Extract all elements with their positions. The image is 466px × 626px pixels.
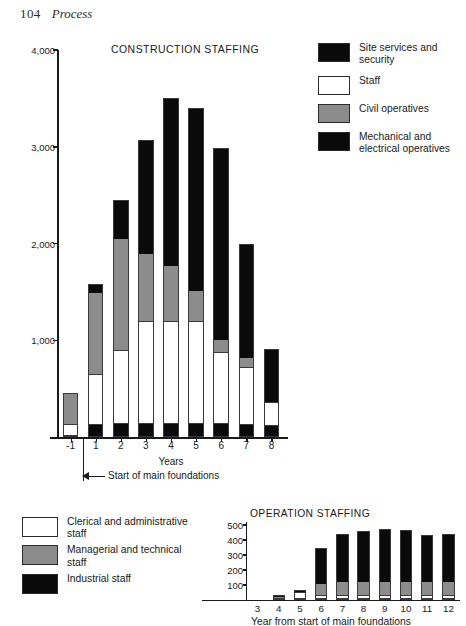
y-tick-label: 4,000 [9,45,55,56]
bar-segment [189,291,203,321]
x-tick-label: 9 [382,603,387,614]
x-tick-label: 11 [422,603,432,614]
construction-legend-item: Site services and security [318,42,466,67]
bar-segment [316,549,326,584]
bar-segment [240,367,254,424]
bar-segment [358,582,368,594]
y-tick-label: 300 [211,550,243,561]
bar-segment [316,595,326,599]
bar-segment [89,285,103,293]
bar-6 [213,148,229,437]
x-tick-label: 7 [340,603,345,614]
bar-5 [294,590,306,600]
x-tick-label: 6 [318,603,323,614]
bar-segment [240,245,254,358]
foundations-annotation-label: Start of main foundations [108,470,219,481]
bar-segment [139,321,153,424]
bar-segment [240,425,254,436]
y-tick-mark [53,340,58,341]
bar-segment [164,266,178,321]
bar-9 [379,529,391,600]
construction-legend-item: Staff [318,75,466,95]
chart2-title: OPERATION STAFFING [210,508,410,519]
bar-8 [357,531,369,600]
bar-7 [239,244,255,437]
bar-segment [274,596,284,597]
x-tick-label: 12 [443,603,454,614]
operation-legend-item: Industrial staff [22,573,192,594]
x-tick-label: 8 [361,603,366,614]
bar-segment [189,424,203,437]
y-tick-label: 1,000 [9,335,55,346]
bar-segment [265,402,279,426]
chart2-x-axis-label: Year from start of main foundations [202,616,460,626]
operation-legend-swatch-icon [22,517,58,537]
construction-legend-label: Site services and security [359,42,466,67]
operation-legend-label: Clerical and administrative staff [67,516,192,540]
x-tick-mark [196,438,197,442]
bar-10 [400,530,412,601]
bar-6 [315,548,327,600]
bar-segment [422,536,432,583]
y-tick-mark [243,539,247,540]
y-tick-mark [243,524,247,525]
bar-segment [295,591,305,592]
y-tick-mark [243,569,247,570]
construction-legend-label: Civil operatives [359,103,429,115]
bar-segment [422,595,432,599]
bar-segment [358,532,368,582]
operation-legend-item: Managerial and technical staff [22,544,192,568]
bar-segment [295,592,305,599]
bar-segment [89,374,103,425]
construction-legend-item: Mechanical and electrical operatives [318,131,466,156]
construction-legend-swatch-icon [318,43,350,62]
construction-legend-swatch-icon [318,132,350,151]
chart1-x-axis-label: Years [58,456,284,467]
x-tick-label: 3 [255,603,260,614]
bar-3 [138,140,154,437]
x-tick-mark [121,438,122,442]
construction-legend-swatch-icon [318,104,350,123]
y-tick-label: 3,000 [9,141,55,152]
bar-segment [337,595,347,599]
bar-segment [89,293,103,374]
y-tick-label: 100 [211,580,243,591]
bar-segment [164,99,178,265]
x-tick-label: 10 [401,603,412,614]
bar-segment [316,584,326,595]
operation-legend-label: Industrial staff [67,573,131,585]
x-tick-mark [271,438,272,442]
bar-segment [139,141,153,254]
bar-segment [64,394,78,424]
chart2-plot-area: 100200300400500 [247,522,459,600]
running-title: Process [52,6,93,21]
bar-5 [188,108,204,437]
bar-segment [240,358,254,367]
page-number: 104 [20,6,41,21]
bar-segment [422,582,432,594]
bar-segment [337,535,347,582]
bar-segment [401,531,411,583]
y-tick-mark [243,584,247,585]
bar-segment [443,582,453,594]
construction-legend-label: Mechanical and electrical operatives [359,131,466,156]
operation-legend-label: Managerial and technical staff [67,544,192,568]
bar-segment [189,109,203,291]
x-tick-mark [171,438,172,442]
operation-legend-item: Clerical and administrative staff [22,516,192,540]
bar-segment [114,239,128,349]
x-tick-mark [96,438,97,442]
x-tick-label: 4 [276,603,281,614]
construction-legend-label: Staff [359,75,380,87]
bar-segment [443,595,453,599]
bar-11 [421,535,433,600]
y-tick-mark [53,243,58,244]
y-tick-label: 400 [211,535,243,546]
bar-segment [214,149,228,340]
bar-segment [214,424,228,436]
running-head: 104Process [20,6,92,22]
chart1-x-axis [50,437,288,439]
bar-2 [113,200,129,437]
textbook-page: 104Process CONSTRUCTION STAFFING 1,0002,… [0,0,466,626]
y-tick-mark [53,146,58,147]
